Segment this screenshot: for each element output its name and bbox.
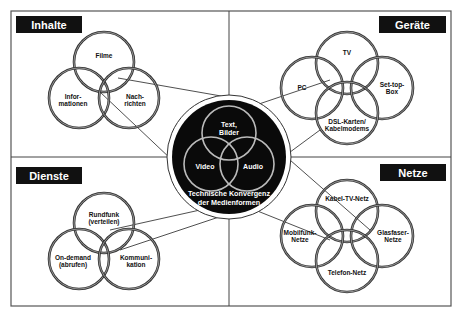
venn-label-dienste-0: Rundfunk(verteilen) [88,211,119,226]
venn-label-inhalte-2: Nach-richten [124,93,146,107]
diagram-canvas: FilmeInfor-mationenNach-richtenInhalteTV… [0,0,459,317]
center-title: Technische Konvergenzder Medienformen [188,189,271,206]
venn-label-inhalte-0: Filme [96,52,113,59]
venn-label-dienste-1: On-demand(abrufen) [55,254,91,269]
quadrant-title-netze: Netze [398,167,427,179]
quadrant-title-inhalte: Inhalte [31,19,66,31]
media-convergence-diagram: FilmeInfor-mationenNach-richtenInhalteTV… [0,0,459,317]
venn-label-geraete-0: TV [343,49,352,56]
venn-label-netze-0: Kabel-TV-Netz [325,195,369,202]
center-label-2: Audio [243,163,263,170]
venn-label-netze-3: Telefon-Netz [328,269,367,276]
center-convergence: Text,BilderVideoAudioTechnische Konverge… [167,95,291,219]
center-label-1: Video [196,163,215,170]
center-label-0: Text,Bilder [219,121,239,136]
venn-label-geraete-1: PC [297,84,306,91]
venn-label-geraete-3: DSL-Karten/Kabelmodems [325,118,370,132]
quadrant-title-geraete: Geräte [395,19,430,31]
quadrant-title-dienste: Dienste [29,170,69,182]
